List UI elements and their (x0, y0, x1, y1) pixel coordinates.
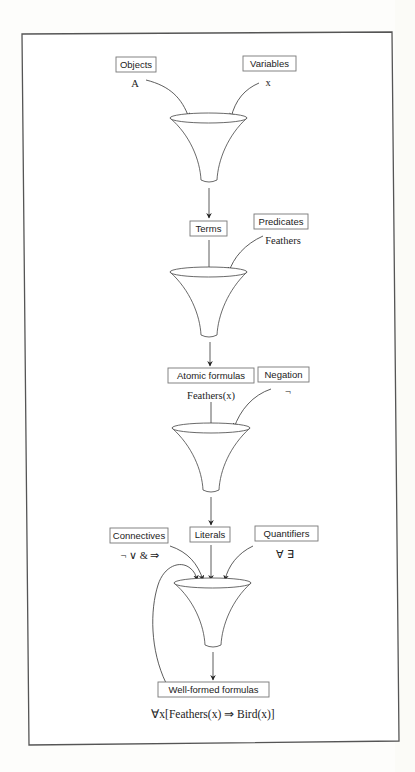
connectives-label: Connectives (113, 530, 166, 541)
quantifiers-example: ∀ ∃ (276, 549, 294, 560)
predicates-example: Feathers (265, 235, 301, 246)
terms-node: Terms (190, 221, 227, 236)
quantifiers-label: Quantifiers (264, 528, 310, 539)
wff-label: Well-formed formulas (168, 684, 258, 695)
logic-funnel-diagram: Objects A Variables x Terms Predicates F… (0, 0, 415, 772)
terms-label: Terms (196, 223, 222, 234)
atomic-formulas-label: Atomic formulas (177, 370, 245, 381)
objects-label: Objects (120, 59, 152, 70)
predicates-label: Predicates (259, 216, 304, 227)
negation-label: Negation (264, 369, 302, 380)
variables-example: x (265, 77, 271, 88)
literals-label: Literals (195, 529, 226, 540)
variables-label: Variables (250, 58, 289, 69)
wff-example: ∀x[Feathers(x) ⇒ Bird(x)] (151, 708, 274, 721)
objects-example: A (131, 78, 139, 89)
negation-example: ¬ (285, 386, 291, 397)
atomic-formulas-example: Feathers(x) (187, 390, 235, 402)
connectives-example: ¬ ∨ & ⇒ (121, 550, 160, 561)
literals-node: Literals (190, 527, 230, 542)
